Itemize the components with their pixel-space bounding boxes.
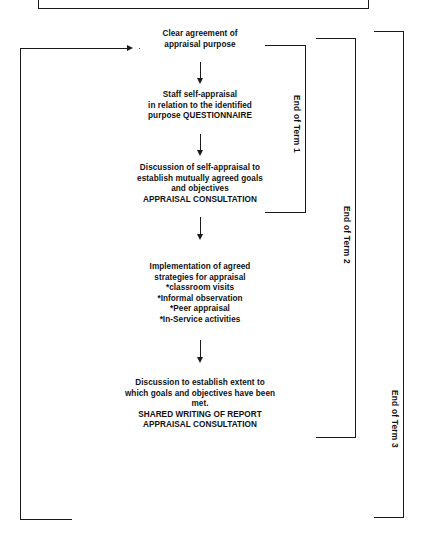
node-clear-agreement: Clear agreement of appraisal purpose [121, 29, 279, 50]
term-2-label: End of Term 2 [342, 206, 352, 264]
node-line: Staff self-appraisal [112, 90, 288, 101]
arrow-3 [195, 217, 206, 241]
node-line: strategies for appraisal [118, 273, 282, 284]
term-2-bracket-top-arm [316, 38, 356, 39]
feedback-loop-bottom-arm [20, 519, 72, 520]
node-line: Implementation of agreed [118, 262, 282, 273]
node-line: *Peer appraisal [118, 304, 282, 315]
term-2-bracket-bottom-arm [316, 437, 356, 438]
node-line: APPRAISAL CONSULTATION [106, 195, 294, 206]
node-line: *In-Service activities [118, 315, 282, 326]
term-3-bracket-bottom-arm [374, 517, 404, 518]
arrow-4 [195, 340, 206, 364]
node-line: establish mutually agreed goals [106, 174, 294, 185]
node-line: *Informal observation [118, 294, 282, 305]
feedback-loop-top-arm [20, 48, 128, 49]
node-implementation-strategies: Implementation of agreed strategies for … [118, 262, 282, 326]
node-line: *classroom visits [118, 283, 282, 294]
node-line: met. [100, 399, 300, 410]
top-box-bottom-edge [38, 8, 369, 9]
node-discussion-self-appraisal: Discussion of self-appraisal to establis… [106, 163, 294, 205]
node-line: APPRAISAL CONSULTATION [100, 420, 300, 431]
term-3-bracket-top-arm [374, 31, 404, 32]
node-line: and objectives [106, 184, 294, 195]
node-discussion-extent: Discussion to establish extent to which … [100, 378, 300, 431]
node-line: which goals and objectives have been [100, 389, 300, 400]
node-line: SHARED WRITING OF REPORT [100, 410, 300, 421]
node-line: Discussion to establish extent to [100, 378, 300, 389]
flowchart-canvas: Clear agreement of appraisal purpose Sta… [0, 0, 428, 550]
node-line: Discussion of self-appraisal to [106, 163, 294, 174]
arrow-2 [195, 134, 206, 156]
term-3-bracket-spine [403, 31, 404, 518]
feedback-loop-left-edge [20, 48, 21, 520]
node-line: Clear agreement of [121, 29, 279, 40]
term-1-bracket-top-arm [265, 45, 306, 46]
term-1-label: End of Term 1 [292, 95, 302, 153]
arrow-1 [195, 62, 206, 84]
node-line: appraisal purpose [121, 40, 279, 51]
term-3-label: End of Term 3 [390, 390, 400, 448]
node-staff-self-appraisal: Staff self-appraisal in relation to the … [112, 90, 288, 122]
term-2-bracket-spine [355, 38, 356, 438]
term-1-bracket-bottom-arm [265, 212, 306, 213]
top-box-right-edge [368, 0, 369, 9]
term-1-bracket-spine [305, 45, 306, 212]
node-line: in relation to the identified [112, 101, 288, 112]
node-line: purpose QUESTIONNAIRE [112, 111, 288, 122]
